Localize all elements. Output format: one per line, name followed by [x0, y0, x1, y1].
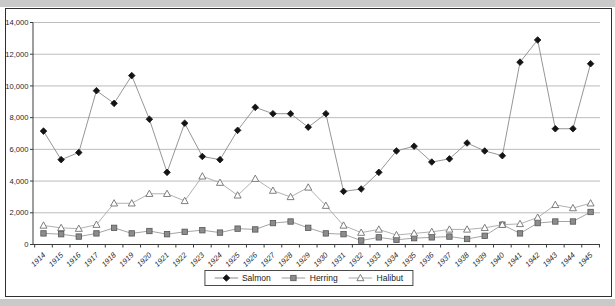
- x-tick-label: 1927: [259, 250, 278, 269]
- y-tick-label: 14,000: [6, 18, 29, 27]
- x-tick-label: 1914: [29, 251, 47, 269]
- y-tick-label: 2,000: [9, 208, 28, 217]
- x-tick-label: 1920: [135, 250, 154, 269]
- series-herring: [41, 209, 594, 243]
- bottom-edge-band: [0, 299, 615, 306]
- legend-item-halibut: Halibut: [349, 273, 403, 283]
- legend-label: Herring: [310, 273, 338, 283]
- x-tick-label: 1945: [576, 250, 595, 269]
- chart-panel: 02,0004,0006,0008,00010,00012,00014,0001…: [5, 8, 612, 297]
- y-tick-label: 0: [24, 240, 28, 249]
- x-tick-label: 1944: [559, 251, 577, 269]
- legend-label: Salmon: [242, 273, 271, 283]
- x-tick-label: 1931: [329, 251, 347, 269]
- x-tick-label: 1918: [100, 250, 119, 269]
- y-tick-label: 12,000: [6, 50, 29, 59]
- y-tick-label: 10,000: [6, 82, 29, 91]
- square-icon: [282, 273, 306, 283]
- x-tick-label: 1928: [276, 250, 295, 269]
- x-tick-label: 1940: [488, 250, 507, 269]
- x-tick-label: 1934: [382, 251, 400, 269]
- x-tick-label: 1930: [311, 250, 330, 269]
- series-salmon: [40, 37, 594, 195]
- x-tick-label: 1938: [453, 250, 472, 269]
- legend-label: Halibut: [377, 273, 403, 283]
- x-tick-label: 1915: [47, 250, 66, 269]
- legend-item-salmon: Salmon: [214, 273, 271, 283]
- x-tick-label: 1916: [64, 250, 83, 269]
- x-tick-label: 1941: [506, 251, 524, 269]
- legend-item-herring: Herring: [282, 273, 338, 283]
- x-tick-label: 1936: [417, 250, 436, 269]
- x-tick-label: 1932: [347, 250, 366, 269]
- y-tick-label: 8,000: [9, 113, 28, 122]
- x-tick-label: 1925: [223, 250, 242, 269]
- top-edge-band: [0, 0, 615, 7]
- x-tick-label: 1924: [206, 251, 224, 269]
- chart-legend: SalmonHerringHalibut: [204, 270, 413, 286]
- x-tick-label: 1937: [435, 250, 454, 269]
- x-tick-label: 1921: [153, 251, 171, 269]
- x-tick-label: 1923: [188, 250, 207, 269]
- x-tick-label: 1935: [400, 250, 419, 269]
- x-tick-label: 1917: [82, 250, 101, 269]
- x-tick-label: 1943: [541, 250, 560, 269]
- x-tick-label: 1933: [364, 250, 383, 269]
- series-halibut: [40, 173, 594, 238]
- x-tick-label: 1922: [170, 250, 189, 269]
- diamond-icon: [214, 273, 238, 283]
- chart-svg: 02,0004,0006,0008,00010,00012,00014,0001…: [6, 9, 611, 296]
- x-tick-label: 1926: [241, 250, 260, 269]
- y-tick-label: 4,000: [9, 177, 28, 186]
- x-tick-label: 1939: [470, 250, 489, 269]
- triangle-open-icon: [349, 273, 373, 283]
- x-tick-label: 1919: [117, 250, 136, 269]
- y-tick-label: 6,000: [9, 145, 28, 154]
- x-tick-label: 1942: [523, 250, 542, 269]
- x-tick-label: 1929: [294, 250, 313, 269]
